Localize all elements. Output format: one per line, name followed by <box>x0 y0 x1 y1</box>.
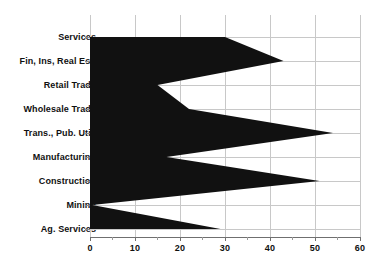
y-axis-label-6: Construction <box>0 176 96 186</box>
chart-container: Services Fin, Ins, Real Est. Retail Trad… <box>0 0 380 274</box>
x-axis-tick-0 <box>90 237 91 241</box>
y-axis-label-4: Trans., Pub. Util. <box>0 128 96 138</box>
x-axis-ticklabel-2: 20 <box>160 243 200 253</box>
x-axis-tick-35 <box>247 237 248 240</box>
area-polygon <box>90 37 333 229</box>
y-axis-label-7: Mining <box>0 200 96 210</box>
x-axis-ticklabel-0: 0 <box>70 243 110 253</box>
x-axis-tick-15 <box>157 237 158 240</box>
y-axis-label-3: Wholesale Trade <box>0 104 96 114</box>
y-axis-label-2: Retail Trade <box>0 80 96 90</box>
x-axis-tick-25 <box>202 237 203 240</box>
area-series-shape <box>90 15 360 237</box>
x-axis-tick-5 <box>112 237 113 240</box>
y-axis-label-8: Ag. Services <box>0 224 96 234</box>
x-axis-tick-45 <box>292 237 293 240</box>
y-axis-label-5: Manufacturing <box>0 152 96 162</box>
x-axis-ticklabel-4: 40 <box>250 243 290 253</box>
x-axis-ticklabel-6: 60 <box>340 243 380 253</box>
x-axis-tick-30 <box>225 237 226 241</box>
x-axis-ticklabel-3: 30 <box>205 243 245 253</box>
x-axis-tick-10 <box>135 237 136 241</box>
y-axis-label-1: Fin, Ins, Real Est. <box>0 56 96 66</box>
x-axis-tick-40 <box>270 237 271 241</box>
gridline-x-60 <box>360 15 361 237</box>
x-axis-ticklabel-1: 10 <box>115 243 155 253</box>
plot-area <box>90 15 360 237</box>
x-axis-tick-50 <box>315 237 316 241</box>
x-axis-ticklabel-5: 50 <box>295 243 335 253</box>
x-axis-tick-60 <box>360 237 361 241</box>
y-axis-label-0: Services <box>0 32 96 42</box>
x-axis-tick-55 <box>337 237 338 240</box>
x-axis-tick-20 <box>180 237 181 241</box>
